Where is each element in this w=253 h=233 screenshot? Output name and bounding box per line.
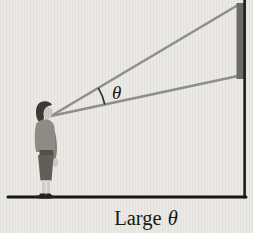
person-belt (40, 150, 54, 155)
person-leg-left (42, 180, 45, 194)
person-skirt (38, 155, 54, 181)
angular-size-diagram: θ Largeθ (0, 0, 253, 233)
person-hand (53, 158, 58, 167)
caption-word: Large (114, 207, 161, 230)
person-sweater (35, 119, 55, 152)
caption: Largeθ (114, 207, 178, 230)
caption-theta-symbol: θ (168, 207, 178, 229)
angle-theta-label: θ (112, 82, 121, 103)
person-leg-right (47, 180, 50, 194)
viewed-object-bar (237, 3, 245, 79)
